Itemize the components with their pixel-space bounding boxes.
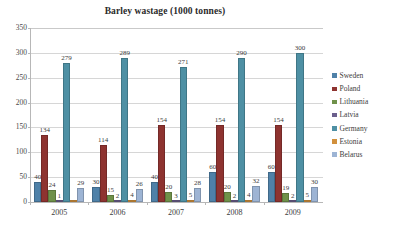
bars: 60154202290432 [205, 28, 263, 202]
bar-slot [70, 28, 77, 202]
bar-slot: 134 [41, 28, 48, 202]
bar-slot: 40 [34, 28, 41, 202]
bar-slot: 154 [158, 28, 165, 202]
bar-latvia-2007[interactable] [172, 200, 179, 202]
legend-label: Latvia [340, 111, 359, 119]
chart-legend: SwedenPolandLithuaniaLatviaGermanyEstoni… [332, 69, 392, 161]
legend-item-estonia[interactable]: Estonia [332, 135, 392, 148]
bar-sweden-2007[interactable] [151, 182, 158, 202]
bar-germany-2008[interactable] [238, 58, 245, 202]
bar-estonia-2008[interactable] [245, 200, 252, 202]
x-tick-mark-2006 [88, 202, 89, 205]
legend-swatch-icon [332, 73, 337, 78]
bar-value-label: 32 [252, 178, 259, 185]
bar-value-label: 40 [34, 174, 41, 181]
legend-label: Belarus [340, 151, 363, 159]
bar-lithuania-2008[interactable] [224, 192, 231, 202]
bar-lithuania-2007[interactable] [165, 192, 172, 202]
bar-poland-2008[interactable] [216, 125, 223, 202]
bar-slot: 28 [194, 28, 201, 202]
bar-slot: 30 [311, 28, 318, 202]
y-axis: 350300250200150100500 [0, 28, 27, 202]
bar-sweden-2009[interactable] [268, 172, 275, 202]
legend-swatch-icon [332, 100, 337, 105]
bar-latvia-2005[interactable] [56, 200, 63, 202]
legend-swatch-icon [332, 152, 337, 157]
x-axis: 20052006200720082009 [30, 206, 322, 220]
legend-item-latvia[interactable]: Latvia [332, 109, 392, 122]
legend-swatch-icon [332, 113, 337, 118]
legend-label: Sweden [340, 72, 364, 80]
bar-belarus-2005[interactable] [77, 188, 84, 202]
bar-value-label: 1 [57, 193, 61, 200]
bar-slot: 32 [252, 28, 259, 202]
bar-belarus-2009[interactable] [311, 187, 318, 202]
bar-latvia-2008[interactable] [231, 200, 238, 202]
y-tick-label-150: 150 [1, 123, 27, 131]
bar-slot: 4 [245, 28, 252, 202]
bar-groups: 4013424127929301141522894264015420327152… [30, 28, 322, 202]
bars: 4013424127929 [30, 28, 88, 202]
bar-sweden-2006[interactable] [92, 187, 99, 202]
bar-estonia-2006[interactable] [128, 200, 135, 202]
legend-item-sweden[interactable]: Sweden [332, 69, 392, 82]
bar-value-label: 20 [165, 184, 172, 191]
bar-slot: 289 [121, 28, 128, 202]
bar-poland-2007[interactable] [158, 125, 165, 202]
bar-slot: 5 [187, 28, 194, 202]
bar-latvia-2009[interactable] [289, 200, 296, 202]
bar-group-2008: 60154202290432 [205, 28, 263, 202]
bar-germany-2006[interactable] [121, 58, 128, 202]
bar-slot: 26 [136, 28, 143, 202]
bar-slot: 2 [289, 28, 296, 202]
bar-poland-2006[interactable] [100, 145, 107, 202]
bar-value-label: 2 [233, 193, 237, 200]
bar-slot: 300 [296, 28, 303, 202]
bar-lithuania-2009[interactable] [282, 193, 289, 202]
bar-value-label: 3 [174, 193, 178, 200]
bar-germany-2009[interactable] [296, 53, 303, 202]
bar-group-2006: 30114152289426 [88, 28, 146, 202]
x-tick-mark-2009 [264, 202, 265, 205]
bar-sweden-2008[interactable] [209, 172, 216, 202]
bar-estonia-2005[interactable] [70, 200, 77, 202]
y-tick-label-350: 350 [1, 24, 27, 32]
legend-item-belarus[interactable]: Belarus [332, 148, 392, 161]
bar-poland-2009[interactable] [275, 125, 282, 202]
x-tick-mark-2005 [30, 202, 31, 205]
bar-value-label: 29 [77, 180, 84, 187]
bar-value-label: 28 [194, 180, 201, 187]
bar-belarus-2008[interactable] [252, 186, 259, 202]
legend-swatch-icon [332, 126, 337, 131]
bars: 30114152289426 [88, 28, 146, 202]
legend-item-poland[interactable]: Poland [332, 82, 392, 95]
bar-sweden-2005[interactable] [34, 182, 41, 202]
bar-germany-2007[interactable] [180, 67, 187, 202]
bar-slot: 24 [48, 28, 55, 202]
bar-chart: Barley wastage (1000 tonnes) 35030025020… [0, 0, 393, 233]
bar-value-label: 24 [49, 182, 56, 189]
bar-germany-2005[interactable] [63, 63, 70, 202]
bar-slot: 19 [282, 28, 289, 202]
bar-belarus-2007[interactable] [194, 188, 201, 202]
y-tick-label-0: 0 [1, 198, 27, 206]
bars: 60154192300530 [264, 28, 322, 202]
bar-slot: 3 [172, 28, 179, 202]
legend-label: Estonia [340, 138, 363, 146]
legend-swatch-icon [332, 139, 337, 144]
y-tick-label-100: 100 [1, 148, 27, 156]
bar-estonia-2007[interactable] [187, 200, 194, 202]
x-tick-label-2006: 2006 [88, 206, 146, 220]
legend-item-lithuania[interactable]: Lithuania [332, 95, 392, 108]
bar-value-label: 4 [247, 192, 251, 199]
bar-lithuania-2005[interactable] [48, 190, 55, 202]
legend-item-germany[interactable]: Germany [332, 122, 392, 135]
bar-latvia-2006[interactable] [114, 200, 121, 202]
bar-belarus-2006[interactable] [136, 189, 143, 202]
y-tick-label-250: 250 [1, 74, 27, 82]
bar-estonia-2009[interactable] [304, 200, 311, 202]
y-tick-label-50: 50 [1, 173, 27, 181]
bar-slot: 60 [209, 28, 216, 202]
bar-lithuania-2006[interactable] [107, 195, 114, 202]
bar-poland-2005[interactable] [41, 135, 48, 202]
